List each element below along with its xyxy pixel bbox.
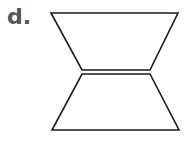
- hourglass-trapezoids-figure: [0, 0, 188, 166]
- top-trapezoid: [51, 13, 178, 70]
- bottom-trapezoid: [52, 74, 179, 130]
